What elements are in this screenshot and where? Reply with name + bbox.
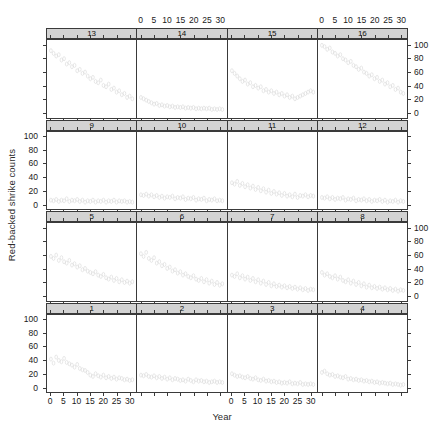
x-tick-mark — [180, 218, 181, 221]
data-point — [399, 288, 402, 292]
data-point — [256, 86, 259, 90]
data-point — [153, 373, 156, 377]
data-point — [360, 284, 363, 288]
y-tick-mark — [43, 374, 46, 375]
data-point — [81, 367, 84, 371]
data-point — [328, 274, 331, 278]
x-tick-mark — [130, 35, 131, 38]
x-tick-label: 0 — [48, 396, 53, 406]
data-point — [285, 286, 288, 290]
data-point — [71, 363, 74, 367]
data-point — [213, 196, 216, 200]
scatter-panel — [318, 223, 407, 301]
y-tick-mark — [408, 374, 411, 375]
data-point — [73, 198, 76, 202]
data-point — [230, 69, 233, 73]
data-point — [296, 287, 299, 291]
x-tick-mark — [77, 127, 78, 130]
y-tick-label: 100 — [414, 223, 428, 233]
x-tick-mark — [141, 35, 142, 38]
x-tick-mark — [63, 218, 64, 221]
data-point — [63, 198, 66, 202]
data-point — [311, 288, 314, 292]
data-point — [288, 284, 291, 288]
data-point — [52, 51, 55, 55]
data-point — [360, 377, 363, 381]
data-point — [140, 373, 143, 377]
data-point — [285, 194, 288, 198]
x-tick-mark — [284, 35, 285, 38]
data-point — [211, 379, 214, 383]
data-point — [357, 280, 360, 284]
data-point — [113, 375, 116, 379]
x-tick-mark — [180, 310, 181, 313]
data-point — [352, 196, 355, 200]
y-axis-title-text: Red-backed shrike counts — [6, 110, 17, 300]
data-point — [373, 284, 376, 288]
x-tick-mark — [298, 35, 299, 38]
data-point — [156, 261, 159, 265]
data-point — [113, 86, 116, 90]
data-point — [192, 105, 195, 109]
data-point — [304, 91, 307, 95]
data-point — [272, 91, 275, 95]
data-point — [233, 71, 236, 75]
x-tick-label: 5 — [332, 15, 337, 25]
data-point — [84, 368, 87, 372]
data-point — [296, 195, 299, 199]
data-point — [153, 194, 156, 198]
data-point — [298, 94, 301, 98]
data-point — [280, 193, 283, 197]
data-point — [396, 289, 399, 293]
data-point — [156, 375, 159, 379]
data-point — [309, 287, 312, 291]
x-tick-mark — [284, 310, 285, 313]
x-tick-mark — [311, 310, 312, 313]
data-point — [68, 199, 71, 203]
data-point — [166, 103, 169, 107]
data-point — [272, 379, 275, 383]
data-point — [192, 379, 195, 383]
y-tick-label: 20 — [414, 94, 423, 104]
y-tick-label: 40 — [29, 172, 38, 182]
data-point — [402, 382, 405, 386]
scatter-panel — [137, 40, 227, 118]
data-point — [259, 281, 262, 285]
x-tick-mark — [130, 218, 131, 221]
data-point — [280, 381, 283, 385]
y-tick-label: 40 — [414, 81, 423, 91]
data-point — [246, 374, 249, 378]
y-tick-mark — [408, 72, 411, 73]
data-point — [126, 95, 129, 99]
x-tick-mark — [117, 127, 118, 130]
y-tick-label: 80 — [414, 236, 423, 246]
data-point — [190, 378, 193, 382]
data-point — [283, 380, 286, 384]
x-tick-label: 30 — [306, 396, 315, 406]
data-point — [84, 266, 87, 270]
x-tick-mark — [375, 35, 376, 38]
data-point — [52, 256, 55, 260]
data-point — [259, 188, 262, 192]
x-tick-mark — [141, 393, 142, 396]
data-point — [326, 272, 329, 276]
x-tick-mark — [180, 127, 181, 130]
data-point — [341, 375, 344, 379]
x-tick-mark — [220, 35, 221, 38]
x-tick-mark — [335, 310, 336, 313]
data-point — [102, 83, 105, 87]
x-tick-label: 10 — [253, 396, 262, 406]
y-tick-mark — [408, 333, 411, 334]
y-tick-mark — [408, 296, 411, 297]
panel-strip-label: 6 — [137, 212, 227, 221]
data-point — [402, 91, 405, 95]
scatter-panel — [228, 223, 318, 301]
y-tick-label: 0 — [414, 108, 419, 118]
data-point — [81, 268, 84, 272]
data-point — [391, 199, 394, 203]
data-point — [140, 95, 143, 99]
x-tick-mark — [311, 127, 312, 130]
x-tick-mark — [284, 127, 285, 130]
x-tick-mark — [258, 35, 259, 38]
x-tick-mark — [117, 218, 118, 221]
